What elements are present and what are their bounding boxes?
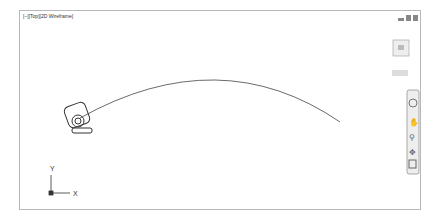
ucs-y-label: Y xyxy=(50,165,55,172)
svg-text:⚲: ⚲ xyxy=(409,133,415,142)
svg-text:✋: ✋ xyxy=(409,117,419,127)
svg-text:✥: ✥ xyxy=(409,148,416,157)
navigation-bar: ✋⚲✥ xyxy=(407,90,419,174)
webcam-block xyxy=(63,101,92,133)
ucs-x-label: X xyxy=(73,190,78,197)
viewcube xyxy=(393,40,409,56)
wcs-menu xyxy=(392,70,408,76)
drawing-canvas: Y X ✋⚲✥ xyxy=(0,0,442,218)
window-controls xyxy=(398,15,418,21)
arc-curve xyxy=(80,80,340,122)
ucs-icon xyxy=(49,175,70,195)
